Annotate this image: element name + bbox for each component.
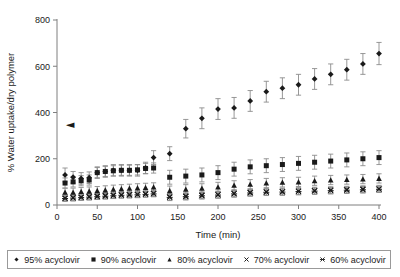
marker-square xyxy=(135,167,140,172)
marker-diamond xyxy=(280,85,286,91)
marker-square xyxy=(111,168,116,173)
marker-square xyxy=(183,174,188,179)
marker-triangle xyxy=(103,187,109,192)
chart-svg: 0200400600800050100150200250300350400Tim… xyxy=(0,0,400,245)
marker-square xyxy=(119,168,124,173)
marker-square xyxy=(264,163,269,168)
y-tick-label: 0 xyxy=(45,200,50,210)
marker-triangle xyxy=(280,180,286,185)
marker-triangle xyxy=(183,186,189,191)
marker-triangle xyxy=(127,186,133,191)
x-tick-label: 150 xyxy=(170,212,185,222)
marker-square xyxy=(167,175,172,180)
legend-item-label: 90% acyclovir xyxy=(101,255,157,265)
marker-diamond xyxy=(360,61,366,67)
marker-triangle xyxy=(231,183,237,188)
legend-item-label: 60% acyclovir xyxy=(330,255,386,265)
marker-triangle xyxy=(328,177,334,182)
y-axis-title: % Water uptake/dry polymer xyxy=(5,53,16,173)
marker-square xyxy=(344,157,349,162)
y-tick-label: 800 xyxy=(35,15,50,25)
marker-triangle xyxy=(312,178,318,183)
marker-triangle xyxy=(135,185,141,190)
plot-area: 0200400600800050100150200250300350400Tim… xyxy=(0,0,400,245)
marker-diamond xyxy=(263,89,269,95)
x-tick-label: 350 xyxy=(331,212,346,222)
marker-triangle xyxy=(111,186,117,191)
marker-square xyxy=(151,166,156,171)
marker-diamond xyxy=(167,151,173,157)
marker-triangle xyxy=(62,189,68,194)
marker-diamond xyxy=(151,155,157,161)
marker-diamond xyxy=(70,174,76,180)
marker-triangle xyxy=(247,181,253,186)
legend-marker-asterisk xyxy=(318,255,327,264)
legend-marker-diamond xyxy=(12,255,21,264)
x-tick-label: 200 xyxy=(210,212,225,222)
marker-diamond xyxy=(312,76,318,82)
marker-square xyxy=(216,170,221,175)
marker-triangle xyxy=(199,186,205,191)
marker-diamond xyxy=(231,105,237,111)
marker-diamond xyxy=(183,126,189,132)
marker-triangle xyxy=(264,180,270,185)
marker-triangle xyxy=(376,176,382,181)
y-tick-label: 600 xyxy=(35,62,50,72)
marker-square xyxy=(87,178,92,183)
x-tick-label: 100 xyxy=(130,212,145,222)
marker-square xyxy=(280,162,285,167)
marker-triangle xyxy=(167,188,173,193)
legend-item-label: 80% acyclovir xyxy=(177,255,233,265)
x-tick-label: 300 xyxy=(291,212,306,222)
marker-diamond xyxy=(376,51,382,57)
marker-square xyxy=(377,155,382,160)
marker-square xyxy=(143,166,148,171)
marker-square xyxy=(71,179,76,184)
x-tick-label: 50 xyxy=(92,212,102,222)
legend-item-triangle[interactable]: 80% acyclovir xyxy=(165,255,233,265)
marker-square xyxy=(127,168,132,173)
marker-square xyxy=(63,181,68,186)
y-tick-label: 400 xyxy=(35,108,50,118)
marker-square xyxy=(296,161,301,166)
marker-square xyxy=(95,170,100,175)
marker-square xyxy=(79,178,84,183)
marker-square xyxy=(248,164,253,169)
marker-triangle xyxy=(143,185,149,190)
marker-triangle xyxy=(296,179,302,184)
marker-triangle xyxy=(86,188,92,193)
chart-legend: 95% acyclovir90% acyclovir80% acyclovir7… xyxy=(7,250,391,269)
legend-marker-square xyxy=(89,255,98,264)
marker-diamond xyxy=(199,115,205,121)
left-triangle-marker-annotation: ◄ xyxy=(66,118,75,131)
marker-diamond xyxy=(215,106,221,112)
marker-triangle xyxy=(94,188,100,193)
marker-square xyxy=(328,159,333,164)
marker-square xyxy=(103,169,108,174)
legend-marker-triangle xyxy=(165,255,174,264)
marker-diamond xyxy=(296,82,302,88)
legend-item-cross[interactable]: 70% acyclovir xyxy=(242,255,310,265)
figure: 0200400600800050100150200250300350400Tim… xyxy=(0,0,400,277)
marker-square xyxy=(360,156,365,161)
legend-item-diamond[interactable]: 95% acyclovir xyxy=(12,255,80,265)
marker-triangle xyxy=(215,184,221,189)
marker-triangle xyxy=(119,186,125,191)
marker-diamond xyxy=(247,98,253,104)
x-tick-label: 0 xyxy=(54,212,59,222)
x-tick-label: 250 xyxy=(251,212,266,222)
marker-diamond xyxy=(344,67,350,73)
x-axis-title: Time (min) xyxy=(195,229,240,240)
marker-triangle xyxy=(344,177,350,182)
legend-item-square[interactable]: 90% acyclovir xyxy=(89,255,157,265)
marker-diamond xyxy=(328,71,334,77)
marker-triangle xyxy=(360,176,366,181)
marker-triangle xyxy=(70,189,76,194)
marker-square xyxy=(232,167,237,172)
marker-triangle xyxy=(78,189,84,194)
marker-square xyxy=(199,172,204,177)
legend-item-label: 95% acyclovir xyxy=(24,255,80,265)
legend-item-asterisk[interactable]: 60% acyclovir xyxy=(318,255,386,265)
x-tick-label: 400 xyxy=(371,212,386,222)
marker-diamond xyxy=(62,172,68,178)
